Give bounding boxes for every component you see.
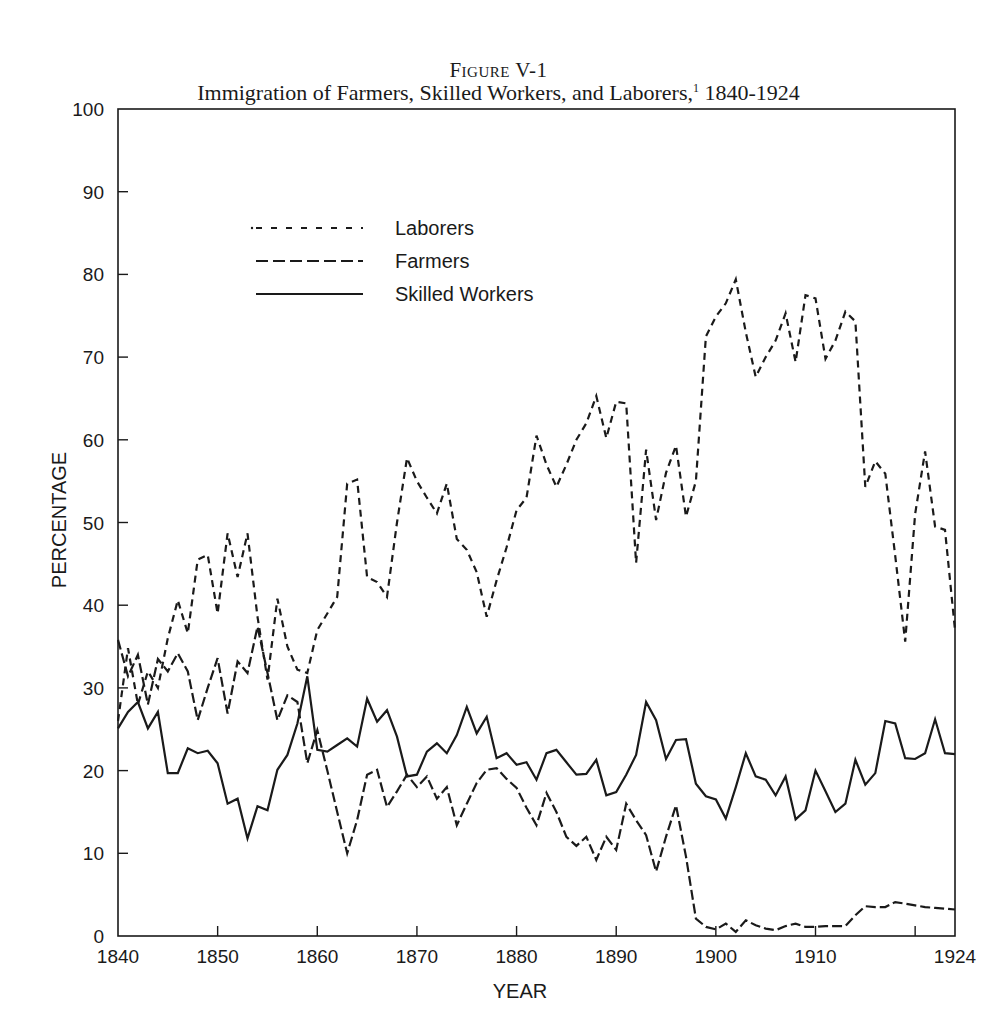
x-tick-label: 1840 [97, 946, 139, 967]
x-tick-label: 1850 [197, 946, 239, 967]
y-tick-label: 40 [83, 595, 104, 616]
series-line-laborers [118, 279, 955, 721]
y-tick-label: 100 [72, 99, 104, 120]
y-tick-label: 0 [93, 926, 104, 947]
x-tick-label: 1924 [934, 946, 977, 967]
y-tick-label: 30 [83, 678, 104, 699]
x-axis-label: YEAR [493, 980, 547, 1002]
plot-frame [118, 109, 955, 936]
y-axis-label: PERCENTAGE [48, 452, 70, 588]
x-tick-label: 1860 [296, 946, 338, 967]
y-tick-label: 70 [83, 347, 104, 368]
y-tick-label: 50 [83, 513, 104, 534]
x-tick-label: 1910 [794, 946, 836, 967]
legend-label: Laborers [395, 217, 474, 239]
series-lines [118, 279, 955, 932]
x-tick-label: 1870 [396, 946, 438, 967]
x-tick-label: 1890 [595, 946, 637, 967]
plot-border [118, 109, 955, 936]
y-tick-label: 10 [83, 843, 104, 864]
x-axis: 184018501860187018801890190019101924 [97, 926, 977, 967]
y-tick-label: 60 [83, 430, 104, 451]
y-tick-label: 90 [83, 182, 104, 203]
legend-dot [251, 227, 253, 229]
legend: LaborersFarmersSkilled Workers [251, 217, 534, 305]
x-tick-label: 1880 [495, 946, 537, 967]
x-tick-label: 1900 [695, 946, 737, 967]
legend-label: Farmers [395, 250, 469, 272]
y-tick-label: 80 [83, 264, 104, 285]
y-axis: 0102030405060708090100 [72, 99, 128, 947]
legend-label: Skilled Workers [395, 283, 534, 305]
series-line-skilled-workers [118, 676, 955, 838]
y-tick-label: 20 [83, 761, 104, 782]
line-chart: 0102030405060708090100 18401850186018701… [0, 0, 997, 1011]
